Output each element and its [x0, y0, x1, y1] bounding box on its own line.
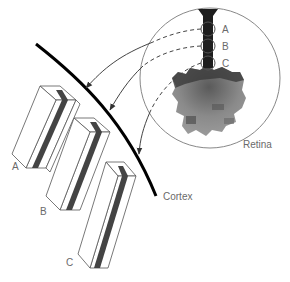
column-label-a: A — [12, 162, 19, 172]
retina-label-b: B — [222, 42, 229, 52]
column-label-c: C — [66, 258, 73, 268]
retina-label: Retina — [243, 140, 272, 150]
retina-field — [172, 66, 246, 136]
retina-label-c: C — [222, 59, 229, 69]
retina-label-a: A — [222, 25, 229, 35]
column-label-b: B — [40, 207, 47, 217]
cortex-label: Cortex — [163, 192, 192, 202]
